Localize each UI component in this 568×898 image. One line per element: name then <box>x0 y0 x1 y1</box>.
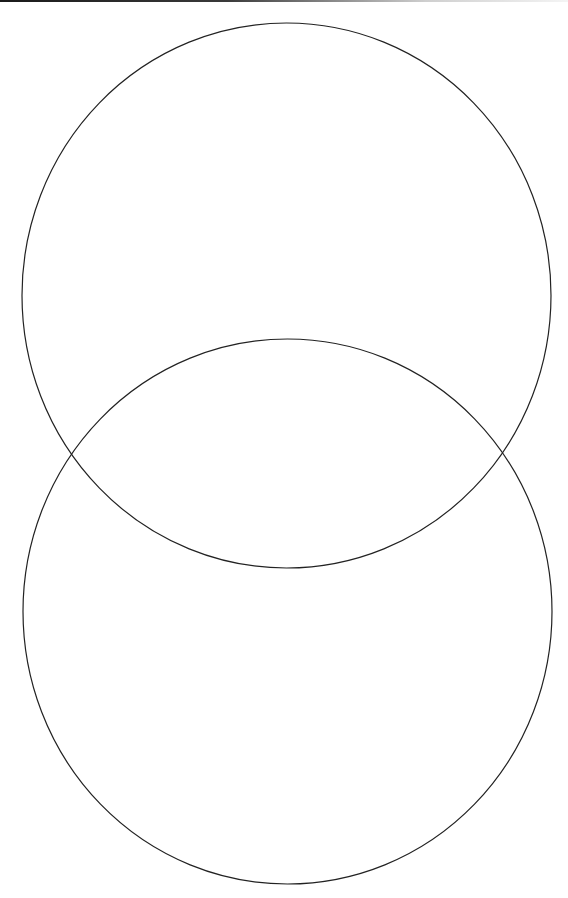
top-circle <box>22 23 551 568</box>
bottom-circle <box>23 339 552 884</box>
venn-diagram <box>0 0 568 898</box>
